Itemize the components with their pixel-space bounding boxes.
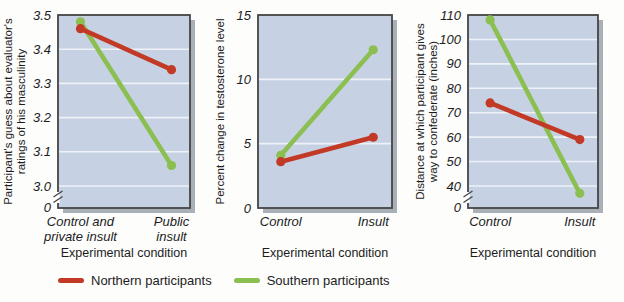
panel-testosterone: 151050ControlInsultExperimental conditio… [206,0,412,272]
x-category-label: private insult [43,229,118,244]
x-category-label: Insult [564,214,596,229]
y-axis-title: Participant's guess about evaluator'srat… [2,18,27,205]
x-axis-title: Experimental condition [262,246,389,260]
distance-chart: 1101009080706050400ControlInsultExperime… [412,0,624,268]
chart-panels-row: 3.53.43.33.23.13.00Control andprivate in… [0,0,624,272]
y-tick-label: 0 [244,201,252,216]
plot-area [58,15,190,208]
x-category-label: Control and [47,214,115,229]
legend: Northern participants Southern participa… [58,273,390,288]
x-category-label: Insult [358,214,390,229]
x-category-label: insult [156,229,188,244]
data-point-southern [167,161,176,170]
x-axis-title: Experimental condition [61,246,188,260]
data-point-northern [76,24,85,33]
x-category-label: Public [154,214,190,229]
y-tick-label: 70 [447,105,462,120]
y-tick-label: 5 [244,136,252,151]
legend-item-northern: Northern participants [58,273,212,288]
y-tick-label: 10 [237,72,252,87]
y-tick-label: 80 [447,81,462,96]
panel-masculinity: 3.53.43.33.23.13.00Control andprivate in… [0,0,206,272]
y-tick-label: 100 [439,32,461,47]
panel-distance: 1101009080706050400ControlInsultExperime… [412,0,624,272]
x-category-label: Control [469,214,512,229]
plot-area [468,15,598,208]
y-tick-label: 60 [447,130,462,145]
plot-area [258,15,392,208]
y-tick-label: 3.4 [33,42,51,57]
southern-line-swatch [234,278,260,283]
legend-item-southern: Southern participants [234,273,390,288]
y-axis-title: Distance at which participant givesway t… [414,23,439,200]
y-tick-label: 3.3 [33,76,52,91]
culture-of-honor-figure: 3.53.43.33.23.13.00Control andprivate in… [0,0,624,302]
x-axis-title: Experimental condition [470,246,597,260]
northern-line-swatch [58,278,84,283]
y-tick-label: 110 [440,8,461,23]
masculinity-chart: 3.53.43.33.23.13.00Control andprivate in… [0,0,206,268]
data-point-northern [575,135,584,144]
data-point-southern [575,189,584,198]
legend-label-northern: Northern participants [91,273,212,288]
y-tick-label: 0 [44,200,52,215]
y-tick-label: 3.2 [33,110,52,125]
y-tick-label: 3.0 [33,179,52,194]
y-tick-label: 90 [447,56,462,71]
x-category-label: Control [260,214,303,229]
legend-label-southern: Southern participants [267,273,390,288]
y-tick-label: 40 [447,179,462,194]
y-tick-label: 0 [454,200,462,215]
y-axis-title: Percent change in testosterone level [214,18,226,204]
y-tick-label: 15 [237,8,252,23]
testosterone-chart: 151050ControlInsultExperimental conditio… [206,0,412,268]
data-point-southern [369,45,378,54]
y-tick-label: 50 [447,154,462,169]
data-point-northern [486,98,495,107]
data-point-southern [486,15,495,24]
data-point-northern [369,133,378,142]
y-tick-label: 3.5 [33,8,52,23]
data-point-northern [167,65,176,74]
data-point-northern [276,157,285,166]
y-tick-label: 3.1 [33,144,51,159]
